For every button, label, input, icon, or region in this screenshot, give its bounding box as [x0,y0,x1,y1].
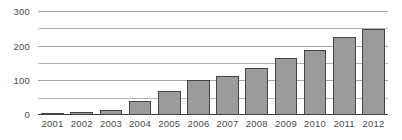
bar-2003 [100,110,123,115]
x-tick-label-2005: 2005 [155,118,184,129]
bar-2011 [333,37,356,115]
x-axis-tick-labels: 2001 2002 2003 2004 2005 2006 2007 2008 … [38,118,388,132]
bar-2006 [187,80,210,115]
bar-chart: 300 200 100 0 2001 2002 2003 2004 2005 2… [0,0,402,140]
bar-2001 [41,113,64,115]
y-tick-label-200: 200 [0,41,30,52]
x-tick-label-2007: 2007 [213,118,242,129]
bar-2002 [70,112,93,115]
x-tick-label-2002: 2002 [67,118,96,129]
x-tick-label-2004: 2004 [126,118,155,129]
bar-2004 [129,101,152,115]
bar-2007 [216,76,239,115]
x-tick-label-2012: 2012 [359,118,388,129]
x-tick-label-2003: 2003 [96,118,125,129]
bar-series [38,11,388,115]
bar-2010 [304,50,327,115]
x-tick-label-2011: 2011 [330,118,359,129]
bar-2012 [362,29,385,115]
x-tick-label-2001: 2001 [38,118,67,129]
bar-2009 [275,58,298,115]
y-tick-label-100: 100 [0,75,30,86]
x-tick-label-2008: 2008 [242,118,271,129]
y-tick-label-300: 300 [0,6,30,17]
bar-2008 [245,68,268,115]
x-tick-label-2009: 2009 [271,118,300,129]
bar-2005 [158,91,181,115]
x-tick-label-2006: 2006 [184,118,213,129]
x-tick-label-2010: 2010 [301,118,330,129]
y-tick-label-0: 0 [0,109,30,120]
